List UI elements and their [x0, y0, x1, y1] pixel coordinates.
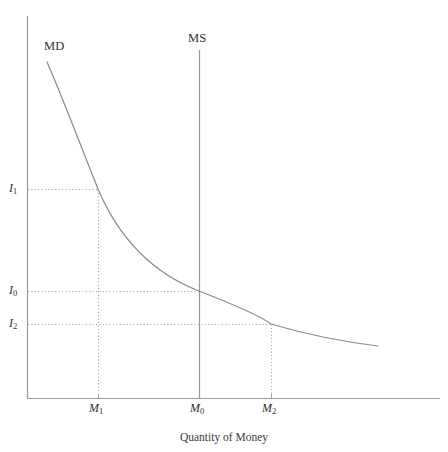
x-tick-label-m0: M0	[190, 402, 204, 416]
x-tick-base-m2: M	[262, 401, 272, 415]
money-demand-curve	[47, 62, 378, 346]
x-tick-sub-m1: 1	[99, 406, 103, 416]
x-tick-base-m1: M	[89, 401, 99, 415]
x-tick-label-m1: M1	[89, 402, 103, 416]
curve-label-md: MD	[44, 40, 65, 53]
chart-canvas	[0, 0, 448, 452]
y-axis-title: Nominal Rate of Interest	[4, 0, 98, 3]
y-tick-label-i2: I2	[9, 317, 17, 331]
curve-label-ms: MS	[188, 32, 206, 45]
y-tick-label-i0: I0	[9, 284, 17, 298]
y-tick-sub-i2: 2	[13, 321, 17, 331]
axis-ticks	[99, 394, 272, 398]
x-axis-title: Quantity of Money	[0, 432, 448, 444]
x-tick-base-m0: M	[190, 401, 200, 415]
y-tick-label-i1: I1	[9, 182, 17, 196]
y-tick-sub-i0: 0	[13, 288, 17, 298]
guide-lines	[28, 190, 272, 399]
x-tick-sub-m0: 0	[200, 406, 204, 416]
axes	[27, 16, 440, 399]
x-tick-sub-m2: 2	[272, 406, 276, 416]
x-tick-label-m2: M2	[262, 402, 276, 416]
money-market-figure: Nominal Rate of Interest MD MS I1 I0 I2 …	[0, 0, 448, 452]
y-tick-sub-i1: 1	[13, 186, 17, 196]
